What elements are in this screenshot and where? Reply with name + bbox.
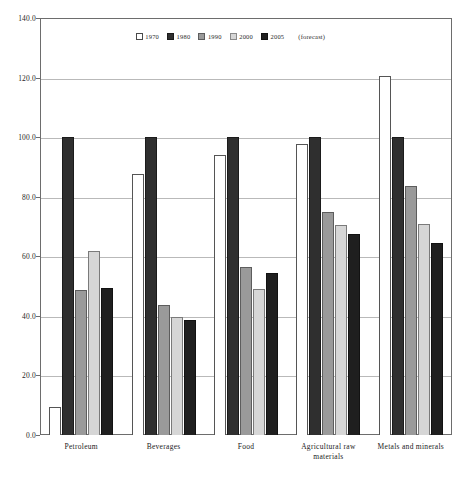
- y-axis-tick-label: 140.0: [0, 14, 36, 23]
- legend: 19701980199020002005(forecast): [0, 33, 461, 40]
- gridline: [41, 257, 451, 258]
- y-axis-tick-mark: [36, 256, 40, 257]
- legend-label: 1970: [145, 33, 159, 40]
- plot-area: [40, 18, 452, 435]
- y-axis-tick-mark: [36, 435, 40, 436]
- gridline: [41, 198, 451, 199]
- y-axis-tick-label: 120.0: [0, 73, 36, 82]
- legend-label: 2000: [239, 33, 253, 40]
- gridline: [41, 79, 451, 80]
- legend-item-1980[interactable]: 1980: [167, 33, 190, 40]
- category-label: Agricultural raw materials: [287, 442, 369, 462]
- legend-swatch-icon: [230, 33, 237, 40]
- legend-item-1970[interactable]: 1970: [136, 33, 159, 40]
- y-axis-tick-mark: [36, 197, 40, 198]
- legend-label: 2005: [271, 33, 285, 40]
- legend-swatch-icon: [136, 33, 143, 40]
- gridline: [41, 317, 451, 318]
- legend-label: 1980: [177, 33, 191, 40]
- y-axis-tick-label: 0.0: [0, 431, 36, 440]
- legend-forecast-note: (forecast): [298, 33, 325, 40]
- legend-label: 1990: [208, 33, 222, 40]
- gridline: [41, 376, 451, 377]
- y-axis-tick-mark: [36, 375, 40, 376]
- y-axis-tick-mark: [36, 137, 40, 138]
- y-axis-tick-label: 80.0: [0, 192, 36, 201]
- legend-item-2000[interactable]: 2000: [230, 33, 253, 40]
- y-axis-tick-label: 40.0: [0, 311, 36, 320]
- category-label: Beverages: [122, 442, 204, 462]
- legend-swatch-icon: [198, 33, 205, 40]
- y-axis-tick-label: 20.0: [0, 371, 36, 380]
- y-axis-tick-mark: [36, 18, 40, 19]
- y-axis-tick-mark: [36, 78, 40, 79]
- category-label: Metals and minerals: [370, 442, 452, 462]
- category-label: Food: [205, 442, 287, 462]
- category-axis: PetroleumBeveragesFoodAgricultural raw m…: [40, 442, 452, 462]
- y-axis-tick-label: 100.0: [0, 133, 36, 142]
- legend-swatch-icon: [167, 33, 174, 40]
- bar-chart: 140.0120.0100.080.060.040.020.00.0 19701…: [0, 0, 461, 489]
- category-label: Petroleum: [40, 442, 122, 462]
- legend-item-1990[interactable]: 1990: [198, 33, 221, 40]
- y-axis-tick-label: 60.0: [0, 252, 36, 261]
- gridline: [41, 138, 451, 139]
- legend-swatch-icon: [261, 33, 268, 40]
- y-axis-tick-mark: [36, 316, 40, 317]
- legend-item-2005[interactable]: 2005: [261, 33, 284, 40]
